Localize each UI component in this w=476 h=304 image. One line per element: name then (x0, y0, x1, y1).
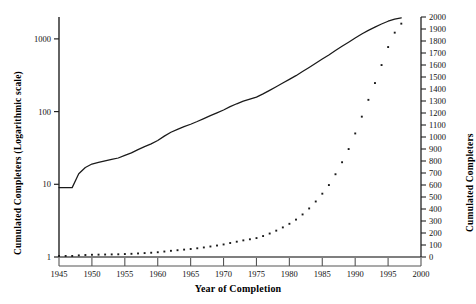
series-dot (295, 219, 297, 221)
series-dot (367, 99, 369, 101)
x-axis-tick-label: 1960 (149, 269, 166, 279)
y-axis-right-tick-label: 1600 (429, 60, 446, 70)
series-dot (157, 251, 159, 253)
x-axis-tick-label: 1950 (83, 269, 100, 279)
series-dot (275, 230, 277, 232)
series-dot (229, 242, 231, 244)
series-dot (262, 235, 264, 237)
y-axis-right-tick-label: 1800 (429, 36, 446, 46)
series-dot (374, 82, 376, 84)
series-dot (381, 64, 383, 66)
series-dot (203, 247, 205, 249)
series-dot (256, 237, 258, 239)
y-axis-right-tick-label: 100 (429, 240, 442, 250)
series-dot (321, 193, 323, 195)
series-dot (335, 173, 337, 175)
series-dot (98, 254, 100, 256)
series-dot (302, 214, 304, 216)
y-axis-left-tick-label: 100 (38, 107, 51, 117)
series-dot (282, 226, 284, 228)
series-dot (117, 253, 119, 255)
y-axis-left-tick-label: 1 (47, 252, 51, 262)
series-dot (236, 241, 238, 243)
series-dot (308, 208, 310, 210)
series-dot (269, 233, 271, 235)
y-axis-right-title: Cumulated Completers (452, 0, 468, 304)
series-dot (170, 250, 172, 252)
series-dot (104, 254, 106, 256)
series-dot (150, 252, 152, 254)
y-axis-right-tick-label: 500 (429, 192, 442, 202)
y-axis-right-tick-label: 1400 (429, 84, 446, 94)
series-dot (84, 254, 86, 256)
y-axis-right-tick-label: 1300 (429, 96, 446, 106)
x-axis-tick-label: 1955 (116, 269, 133, 279)
y-axis-right-tick-label: 2000 (429, 12, 446, 22)
chart-plot-area: 1101001000010020030040050060070080090010… (0, 0, 476, 304)
x-axis-tick-label: 1975 (248, 269, 265, 279)
series-dot (348, 148, 350, 150)
series-line-log (59, 18, 401, 188)
series-dot (65, 255, 67, 257)
series-dot (328, 184, 330, 186)
series-dot (163, 251, 165, 253)
y-axis-right-title-text: Cumulated Completers (465, 133, 475, 232)
x-axis-title-text: Year of Completion (195, 283, 282, 294)
series-dot (58, 255, 60, 257)
series-dot (131, 253, 133, 255)
series-dot (71, 255, 73, 257)
series-dot (190, 248, 192, 250)
y-axis-right-tick-label: 1100 (429, 120, 446, 130)
series-dot (354, 133, 356, 135)
y-axis-right-tick-label: 0 (429, 252, 433, 262)
series-dot (249, 238, 251, 240)
y-axis-right-tick-label: 1900 (429, 24, 446, 34)
y-axis-right-tick-label: 700 (429, 168, 442, 178)
series-dot (78, 254, 80, 256)
series-dot (216, 245, 218, 247)
series-dot (144, 252, 146, 254)
x-axis-tick-label: 1985 (314, 269, 331, 279)
series-dot (124, 253, 126, 255)
series-dot (242, 239, 244, 241)
y-axis-right-tick-label: 1500 (429, 72, 446, 82)
series-dot (223, 244, 225, 246)
x-axis-tick-label: 1965 (182, 269, 199, 279)
series-dots-linear (58, 23, 402, 257)
y-axis-right-tick-label: 800 (429, 156, 442, 166)
y-axis-right-tick-label: 900 (429, 144, 442, 154)
series-dot (387, 46, 389, 48)
y-axis-left-tick-label: 10 (43, 179, 52, 189)
y-axis-right-tick-label: 200 (429, 228, 442, 238)
series-dot (177, 249, 179, 251)
y-axis-right-tick-label: 600 (429, 180, 442, 190)
series-dot (394, 32, 396, 34)
y-axis-right-tick-label: 1000 (429, 132, 446, 142)
series-dot (137, 253, 139, 255)
series-dot (111, 253, 113, 255)
y-axis-right-tick-label: 1700 (429, 48, 446, 58)
series-dot (196, 247, 198, 249)
y-axis-right-tick-label: 1200 (429, 108, 446, 118)
series-dot (183, 249, 185, 251)
series-dot (341, 161, 343, 163)
series-dot (361, 116, 363, 118)
chart-figure: 1101001000010020030040050060070080090010… (0, 0, 476, 304)
series-dot (209, 246, 211, 248)
x-axis-tick-label: 2000 (413, 269, 430, 279)
y-axis-right-tick-label: 300 (429, 216, 442, 226)
y-axis-left-tick-label: 1000 (34, 34, 51, 44)
x-axis-tick-label: 1990 (347, 269, 364, 279)
y-axis-right-tick-label: 400 (429, 204, 442, 214)
x-axis-tick-label: 1995 (380, 269, 397, 279)
x-axis-tick-label: 1945 (51, 269, 68, 279)
series-dot (315, 201, 317, 203)
series-dot (288, 223, 290, 225)
x-axis-title: Year of Completion (0, 283, 476, 294)
x-axis-tick-label: 1980 (281, 269, 298, 279)
y-axis-left-title-text: Cumulated Completers (Logarithmic scale) (13, 71, 23, 255)
series-dot (91, 254, 93, 256)
y-axis-left-title: Cumulated Completers (Logarithmic scale) (0, 0, 16, 304)
series-dot (400, 23, 402, 25)
x-axis-tick-label: 1970 (215, 269, 232, 279)
